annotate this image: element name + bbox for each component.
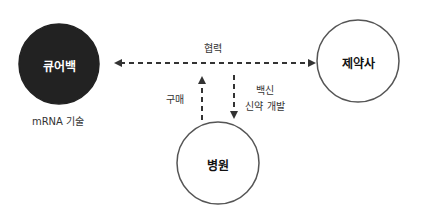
development-label-line2: 신약 개발 <box>240 101 290 113</box>
purchase-label: 구매 <box>160 94 190 106</box>
curevac-sublabel: mRNA 기술 <box>18 116 98 128</box>
curevac-label: 큐어백 <box>19 57 99 74</box>
collaboration-label: 협력 <box>193 43 233 55</box>
diagram-canvas <box>0 0 433 219</box>
hospital-label: 병원 <box>178 156 258 173</box>
development-label-line1: 백신 <box>240 85 290 97</box>
pharma-label: 제약사 <box>318 54 398 71</box>
